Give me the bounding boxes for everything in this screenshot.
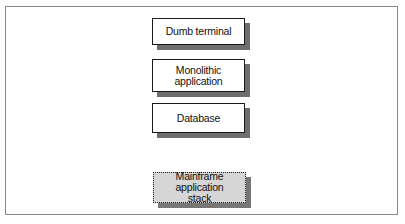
- layer-label: Monolithic application: [174, 65, 222, 87]
- layer-label: Dumb terminal: [166, 26, 232, 37]
- mainframe-application-stack-label: Mainframe application stack: [153, 172, 246, 203]
- layer-monolithic-application: Monolithic application: [152, 59, 245, 92]
- layer-dumb-terminal: Dumb terminal: [152, 18, 245, 45]
- layer-label: Database: [177, 113, 220, 124]
- stack-label: Mainframe application stack: [154, 171, 245, 204]
- layer-database: Database: [152, 103, 245, 133]
